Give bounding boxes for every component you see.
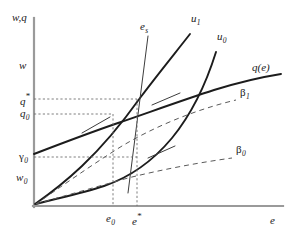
x-tick-e-star: e* [132, 213, 141, 227]
curve-label-es-sub: s [145, 26, 148, 35]
curve-label-u1: u1 [191, 13, 200, 24]
curve-label-beta0: β0 [236, 144, 245, 155]
star-glyph: * [26, 91, 31, 101]
y-tick-q0-base: q [20, 107, 26, 119]
diagram-canvas [0, 0, 291, 242]
y-tick-w-base: w [19, 59, 26, 71]
y-tick-gamma0-sub: 0 [24, 156, 28, 165]
y-tick-w: w [19, 60, 26, 71]
y-tick-q0: q0 [20, 108, 29, 119]
curve-label-u0: u0 [217, 31, 226, 42]
y-tick-w0: w0 [16, 172, 27, 183]
curve-label-es: es [140, 21, 148, 32]
y-tick-q-star: q* [20, 93, 30, 107]
curve-label-beta1-base: β [240, 86, 246, 98]
x-axis-label: e [270, 215, 275, 226]
y-tick-q-star-base: q [20, 95, 26, 107]
line-beta1 [36, 100, 236, 204]
x-tick-e0-sub: 0 [111, 218, 115, 227]
y-axis-label: w,q [12, 12, 27, 23]
curve-label-beta1: β1 [240, 87, 249, 98]
y-tick-w0-sub: 0 [24, 177, 28, 186]
economics-diagram: w,q e w q* q0 γ0 w0 e0 e* es u1 u0 q(e) [0, 0, 291, 242]
curve-label-beta0-sub: 0 [242, 149, 246, 158]
curve-label-u0-sub: 0 [223, 36, 227, 45]
curve-label-beta1-sub: 1 [246, 92, 250, 101]
curve-label-u0-base: u [217, 30, 223, 42]
y-tick-q0-sub: 0 [26, 113, 30, 122]
x-tick-e0: e0 [106, 213, 115, 224]
curve-label-q-of-e: q(e) [252, 62, 270, 73]
star-glyph: * [137, 211, 142, 221]
curve-label-q-of-e-base: q(e) [252, 61, 270, 73]
curve-label-beta0-base: β [236, 143, 242, 155]
curve-label-u1-sub: 1 [197, 18, 201, 27]
y-tick-w0-base: w [16, 171, 23, 183]
curve-label-u1-base: u [191, 12, 197, 24]
tangent-segment-lower [148, 146, 175, 158]
curve-u0 [36, 52, 216, 204]
curve-u1 [35, 34, 190, 204]
y-tick-gamma0: γ0 [19, 151, 28, 162]
